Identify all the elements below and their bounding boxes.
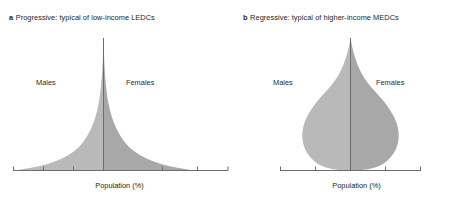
- panel-a-svg: 15 10 5 0 15 10 5: [0, 26, 233, 171]
- panel-a-females-label: Females: [126, 78, 154, 87]
- panel-a-plot: 15 10 5 0 15 10 5: [0, 26, 233, 171]
- panel-b-males-area: [302, 38, 350, 171]
- panel-b-males-label: Males: [273, 78, 293, 87]
- panel-b-svg: 10 5 0 15 10: [234, 26, 467, 171]
- panel-b-title-text: Regressive: typical of higher-income MED…: [250, 13, 399, 22]
- panel-a: aProgressive: typical of low-income LEDC…: [0, 0, 233, 202]
- panel-a-letter: a: [9, 13, 13, 22]
- panel-b-females-label: Females: [376, 78, 404, 87]
- panel-b-axis-title: Population (%): [240, 181, 467, 190]
- panel-b: bRegressive: typical of higher-income ME…: [234, 0, 467, 202]
- panel-b-plot: 10 5 0 15 10: [234, 26, 467, 171]
- panel-b-females-area: [351, 38, 399, 171]
- panel-b-title: bRegressive: typical of higher-income ME…: [243, 13, 399, 23]
- panel-a-males-area: [18, 38, 104, 170]
- panel-a-males-label: Males: [36, 78, 56, 87]
- population-pyramid-figure: aProgressive: typical of low-income LEDC…: [0, 0, 467, 202]
- panel-b-letter: b: [243, 13, 248, 22]
- panel-a-axis-title: Population (%): [3, 181, 236, 190]
- panel-a-title: aProgressive: typical of low-income LEDC…: [9, 13, 155, 23]
- panel-a-title-text: Progressive: typical of low-income LEDCs: [16, 13, 155, 22]
- panel-a-females-area: [104, 38, 192, 170]
